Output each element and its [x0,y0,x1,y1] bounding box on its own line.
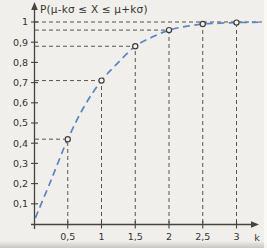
data-point [234,20,239,25]
scan-edge-right [264,0,267,248]
data-point [99,78,104,83]
x-tick-label: 0,5 [60,231,75,242]
y-tick-label: 0,7 [13,77,28,88]
x-tick-label: 3 [233,231,239,242]
x-tick-label: 1 [98,231,104,242]
x-tick-label: 2 [166,231,172,242]
tick-labels-group: 0,10,20,30,40,50,60,70,80,910,511,522,53 [13,16,240,241]
y-tick-label: 0,5 [13,117,28,128]
y-tick-label: 0,8 [13,57,28,68]
axes-group [31,2,259,229]
y-tick-label: 0,4 [13,138,28,149]
y-tick-label: 0,1 [13,198,28,209]
probability-curve [35,22,262,218]
guide-lines [35,22,262,223]
x-axis-arrow [251,221,259,228]
data-point [133,44,138,49]
data-point [166,27,171,32]
x-tick-label: 1,5 [128,231,143,242]
y-tick-label: 0,9 [13,37,28,48]
x-tick-label: 2,5 [195,231,210,242]
y-tick-label: 1 [22,16,28,27]
chart-title: P(μ-kσ ≤ X ≤ μ+kσ) [40,3,148,15]
y-axis-arrow [31,2,38,10]
scan-shadow-bottom [0,241,267,248]
y-tick-label: 0,2 [13,178,28,189]
figure-root: 0,10,20,30,40,50,60,70,80,910,511,522,53… [0,0,267,248]
y-tick-label: 0,6 [13,97,28,108]
y-tick-label: 0,3 [13,158,28,169]
data-point [65,137,70,142]
probability-curve-group [35,22,262,218]
data-point [200,21,205,26]
plot-svg: 0,10,20,30,40,50,60,70,80,910,511,522,53… [0,0,267,248]
